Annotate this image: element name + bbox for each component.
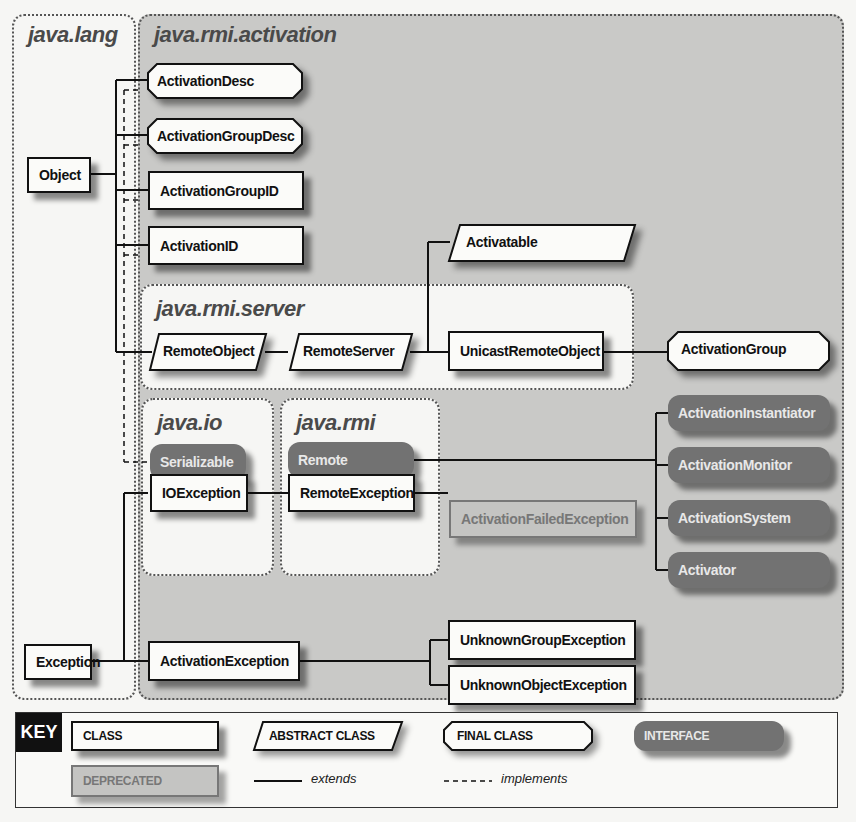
node-label: ActivationGroup bbox=[681, 341, 786, 357]
node-label: ActivationException bbox=[160, 653, 289, 669]
extends-line-sample bbox=[254, 779, 304, 783]
node-label: Activator bbox=[678, 562, 736, 578]
key-deprecated: DEPRECATED bbox=[71, 765, 219, 797]
class-unknown-object-exception[interactable]: UnknownObjectException bbox=[448, 665, 636, 705]
abstract-class-remote-object[interactable]: RemoteObject bbox=[149, 333, 267, 369]
node-label: Serializable bbox=[160, 454, 233, 470]
node-label: Remote bbox=[298, 452, 348, 468]
key-implements-label: implements bbox=[501, 771, 567, 786]
legend: KEY CLASS ABSTRACT CLASS FINAL CLASS INT… bbox=[15, 712, 838, 808]
node-label: Exception bbox=[36, 654, 100, 670]
node-label: ActivationID bbox=[160, 238, 238, 254]
interface-activation-monitor[interactable]: ActivationMonitor bbox=[668, 447, 830, 483]
class-io-exception[interactable]: IOException bbox=[150, 474, 248, 512]
key-final-class: FINAL CLASS bbox=[443, 721, 593, 751]
final-class-activation-group-desc[interactable]: ActivationGroupDesc bbox=[147, 118, 303, 154]
class-remote-exception[interactable]: RemoteException bbox=[288, 474, 415, 512]
package-title: java.io bbox=[157, 410, 222, 436]
package-title: java.lang bbox=[28, 22, 118, 48]
node-label: UnknownGroupException bbox=[460, 632, 626, 648]
node-label: Object bbox=[39, 167, 81, 183]
node-label: IOException bbox=[162, 485, 240, 501]
node-label: ActivationFailedException bbox=[461, 511, 629, 527]
class-object[interactable]: Object bbox=[27, 157, 91, 193]
node-label: ActivationMonitor bbox=[678, 457, 792, 473]
key-label: CLASS bbox=[83, 729, 122, 743]
key-extends-label: extends bbox=[311, 771, 357, 786]
abstract-class-remote-server[interactable]: RemoteServer bbox=[289, 333, 413, 369]
interface-activator[interactable]: Activator bbox=[668, 552, 830, 588]
abstract-class-activation-group[interactable]: ActivationGroup bbox=[667, 331, 830, 367]
class-activation-group-id[interactable]: ActivationGroupID bbox=[148, 171, 304, 210]
interface-activation-system[interactable]: ActivationSystem bbox=[668, 500, 830, 536]
package-java-lang: java.lang bbox=[12, 14, 136, 700]
abstract-class-activatable[interactable]: Activatable bbox=[448, 224, 636, 260]
node-label: RemoteException bbox=[300, 485, 414, 501]
key-label: DEPRECATED bbox=[83, 774, 162, 788]
node-label: ActivationGroupID bbox=[160, 183, 279, 199]
node-label: ActivationGroupDesc bbox=[157, 128, 294, 144]
class-activation-id[interactable]: ActivationID bbox=[148, 226, 304, 265]
final-class-activation-desc[interactable]: ActivationDesc bbox=[147, 63, 303, 99]
implements-line-sample bbox=[444, 779, 494, 783]
node-label: RemoteServer bbox=[303, 343, 394, 359]
key-label: ABSTRACT CLASS bbox=[269, 729, 375, 743]
class-activation-exception[interactable]: ActivationException bbox=[148, 641, 300, 681]
interface-activation-instantiator[interactable]: ActivationInstantiator bbox=[668, 395, 830, 431]
key-class: CLASS bbox=[71, 721, 219, 751]
node-label: UnicastRemoteObject bbox=[460, 343, 600, 359]
key-badge: KEY bbox=[16, 713, 62, 752]
package-title: java.rmi bbox=[296, 410, 375, 436]
node-label: ActivationDesc bbox=[157, 73, 254, 89]
node-label: ActivationInstantiator bbox=[678, 405, 815, 421]
key-label: INTERFACE bbox=[644, 729, 709, 743]
package-title: java.rmi.server bbox=[156, 296, 304, 322]
node-label: Activatable bbox=[466, 234, 537, 250]
node-label: ActivationSystem bbox=[678, 510, 791, 526]
key-interface: INTERFACE bbox=[634, 721, 784, 751]
class-exception[interactable]: Exception bbox=[24, 644, 92, 680]
package-title: java.rmi.activation bbox=[154, 22, 336, 48]
node-label: RemoteObject bbox=[163, 343, 254, 359]
key-abstract-class: ABSTRACT CLASS bbox=[253, 721, 403, 751]
node-label: UnknownObjectException bbox=[460, 677, 627, 693]
class-unicast-remote-object[interactable]: UnicastRemoteObject bbox=[448, 331, 604, 371]
key-label: FINAL CLASS bbox=[457, 729, 533, 743]
interface-remote[interactable]: Remote bbox=[288, 442, 414, 478]
class-unknown-group-exception[interactable]: UnknownGroupException bbox=[448, 620, 636, 660]
deprecated-class-activation-failed-exception[interactable]: ActivationFailedException bbox=[449, 500, 637, 538]
